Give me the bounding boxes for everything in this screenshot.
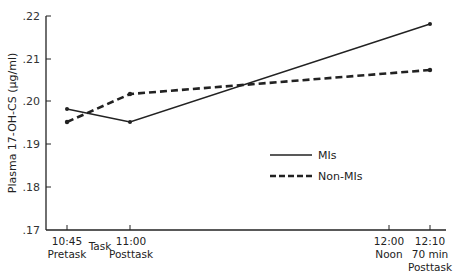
x-ticks — [67, 225, 430, 230]
x-time-label: 12:10 — [415, 235, 445, 247]
series-non-mis-line — [67, 70, 430, 122]
y-axis-title: Plasma 17-OH-CS (µg/ml) — [6, 53, 19, 194]
y-ticks — [46, 16, 51, 187]
y-tick-labels: .22 .21 .20 .19 .18 .17 — [23, 10, 41, 237]
x-time-label: 12:00 — [374, 235, 404, 247]
x-tick-labels: 10:45 Pretask Task 11:00 Posttask 12:00 … — [48, 235, 453, 273]
series-mis-line — [67, 24, 430, 122]
y-tick-label: .22 — [23, 10, 41, 23]
legend-mis-label: MIs — [318, 149, 337, 162]
x-time-label: 10:45 — [52, 235, 82, 247]
series-mis-markers — [65, 22, 432, 124]
y-tick-label: .18 — [23, 181, 41, 194]
legend-non-mis-label: Non-MIs — [318, 170, 363, 183]
x-time-label: 11:00 — [116, 235, 146, 247]
legend: MIs Non-MIs — [270, 149, 363, 183]
x-sub-label: Posttask — [109, 248, 154, 260]
y-tick-label: .17 — [23, 224, 41, 237]
line-chart: .22 .21 .20 .19 .18 .17 Plasma 17-OH-CS … — [0, 0, 463, 279]
x-sub-label: Pretask — [48, 248, 88, 260]
x-sub-label-2: Posttask — [408, 261, 453, 273]
x-sub-label: 70 min — [412, 248, 449, 260]
y-tick-label: .21 — [23, 53, 41, 66]
x-sub-label: Noon — [375, 248, 402, 260]
y-tick-label: .20 — [23, 95, 41, 108]
series-non-mis-markers — [65, 68, 432, 124]
y-tick-label: .19 — [23, 138, 41, 151]
